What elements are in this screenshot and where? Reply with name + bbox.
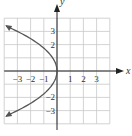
x-tick-label: 3 [94, 74, 99, 84]
x-tick-label: −2 [26, 74, 36, 84]
y-axis-label: y [59, 0, 65, 7]
x-tick-label: 2 [81, 74, 86, 84]
y-tick-label: −2 [45, 92, 55, 102]
y-tick-label: 2 [51, 40, 56, 50]
x-tick-label: −3 [13, 74, 23, 84]
y-tick-label: −3 [45, 106, 55, 116]
y-tick-label: 3 [51, 26, 56, 36]
x-axis-arrow-icon [116, 68, 124, 74]
x-tick-label: 1 [68, 74, 73, 84]
parabola-graph: xy −3−2−112332−2−3 [0, 0, 132, 136]
x-tick-label: −1 [39, 74, 49, 84]
x-axis-label: x [125, 65, 131, 76]
